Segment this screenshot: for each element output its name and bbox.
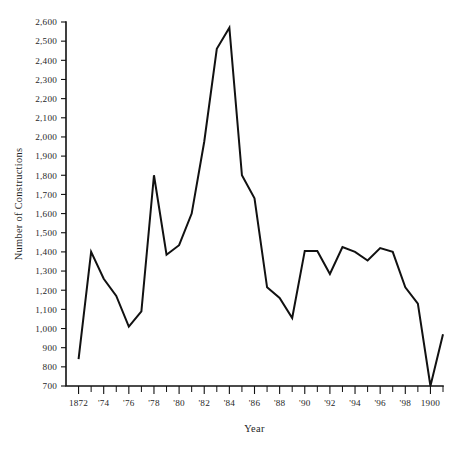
- y-axis-tick-label: 1,600: [35, 209, 57, 219]
- x-axis-tick-label: '92: [324, 398, 336, 408]
- y-axis-tick-label: 2,200: [35, 94, 57, 104]
- y-axis-tick-label: 1,400: [35, 247, 57, 257]
- y-axis-tick-label: 1,700: [35, 190, 57, 200]
- x-axis-tick-label: '78: [148, 398, 160, 408]
- y-axis-title: Number of Constructions: [13, 148, 24, 261]
- x-axis-tick-label: '84: [224, 398, 236, 408]
- x-axis-tick-label: '88: [274, 398, 286, 408]
- data-series-line: [79, 28, 443, 386]
- x-axis-tick-label: '76: [123, 398, 135, 408]
- x-axis-tick-label: 1900: [421, 398, 440, 408]
- y-axis-tick-label: 800: [43, 362, 58, 372]
- y-axis-tick-label: 1,500: [35, 228, 57, 238]
- x-axis-tick-label: '74: [98, 398, 110, 408]
- x-axis-tick-label: '98: [400, 398, 412, 408]
- x-axis-tick-label: '80: [173, 398, 185, 408]
- y-axis-tick-label: 700: [43, 381, 58, 391]
- y-axis-tick-label: 2,500: [35, 36, 57, 46]
- x-axis-tickmarks: [79, 386, 443, 394]
- x-axis-title: Year: [244, 423, 265, 434]
- x-axis-tick-labels: 1872'74'76'78'80'82'84'86'88'90'92'94'96…: [69, 398, 440, 408]
- chart-figure: 7008009001,0001,1001,2001,3001,4001,5001…: [0, 0, 454, 451]
- line-chart: 7008009001,0001,1001,2001,3001,4001,5001…: [0, 0, 454, 451]
- x-axis-tick-label: '82: [199, 398, 211, 408]
- y-axis-tick-label: 900: [43, 343, 58, 353]
- x-axis-tick-label: 1872: [69, 398, 88, 408]
- y-axis-tick-label: 2,100: [35, 113, 57, 123]
- y-axis-tick-label: 2,300: [35, 75, 57, 85]
- y-axis-tick-label: 1,200: [35, 286, 57, 296]
- y-axis-tick-label: 2,000: [35, 132, 57, 142]
- x-axis-tick-label: '96: [374, 398, 386, 408]
- x-axis-tick-label: '94: [349, 398, 361, 408]
- y-axis-tick-label: 1,300: [35, 266, 57, 276]
- y-axis-tick-label: 1,900: [35, 151, 57, 161]
- x-axis-tick-label: '86: [249, 398, 261, 408]
- x-axis-tick-label: '90: [299, 398, 311, 408]
- y-axis-tick-labels: 7008009001,0001,1001,2001,3001,4001,5001…: [35, 17, 57, 391]
- y-axis-tick-label: 1,000: [35, 324, 57, 334]
- y-axis-tick-label: 1,100: [35, 305, 57, 315]
- y-axis-tick-label: 2,400: [35, 56, 57, 66]
- y-axis-tick-label: 1,800: [35, 171, 57, 181]
- y-axis-tick-label: 2,600: [35, 17, 57, 27]
